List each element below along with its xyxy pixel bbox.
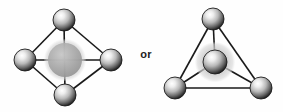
square-planar-structure	[14, 9, 122, 106]
atom-bottom-right	[250, 77, 272, 99]
molecular-geometry-figure: or	[0, 0, 283, 112]
central-atom-sphere	[48, 43, 82, 77]
atom-top	[202, 8, 224, 30]
central-atom	[195, 42, 235, 82]
conjunction-label: or	[134, 48, 158, 60]
atom-bottom	[54, 84, 76, 106]
atom-left	[14, 49, 36, 71]
atom-right	[100, 49, 122, 71]
tetrahedral-structure	[164, 8, 272, 99]
atom-top	[53, 9, 75, 31]
central-atom-sphere	[203, 50, 227, 74]
central-atom	[44, 39, 86, 81]
atom-bottom-left	[164, 77, 186, 99]
